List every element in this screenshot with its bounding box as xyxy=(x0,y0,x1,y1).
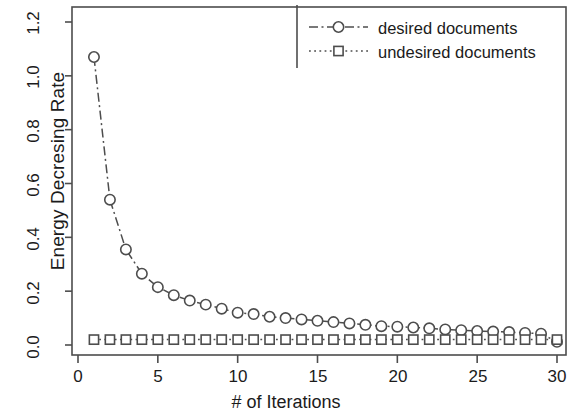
marker-square xyxy=(520,335,529,344)
marker-circle xyxy=(280,313,290,323)
x-tick-label-3: 15 xyxy=(298,367,338,387)
marker-circle xyxy=(185,295,195,305)
y-tick-label-5: 1.0 xyxy=(24,54,44,100)
marker-circle xyxy=(169,290,179,300)
marker-square xyxy=(121,335,130,344)
marker-circle xyxy=(312,316,322,326)
x-tick-label-4: 20 xyxy=(378,367,418,387)
y-tick-label-1: 0.2 xyxy=(24,270,44,316)
plot-canvas xyxy=(0,0,572,419)
marker-circle xyxy=(217,303,227,313)
marker-circle xyxy=(424,323,434,333)
marker-square xyxy=(536,335,545,344)
marker-circle xyxy=(105,194,115,204)
marker-circle xyxy=(137,268,147,278)
legend-marker-circle xyxy=(333,22,343,32)
marker-square xyxy=(393,335,402,344)
marker-square xyxy=(233,335,242,344)
marker-square xyxy=(377,335,386,344)
marker-square xyxy=(265,335,274,344)
x-axis-title: # of Iterations xyxy=(0,392,572,413)
legend-marker-square xyxy=(334,46,343,55)
legend-label-desired: desired documents xyxy=(378,19,517,38)
marker-circle xyxy=(456,325,466,335)
marker-circle xyxy=(360,320,370,330)
marker-square xyxy=(425,335,434,344)
x-tick-label-2: 10 xyxy=(218,367,258,387)
marker-square xyxy=(153,335,162,344)
series-undesired xyxy=(89,335,561,344)
legend-label-undesired: undesired documents xyxy=(378,43,536,62)
marker-square xyxy=(201,335,210,344)
marker-square xyxy=(345,335,354,344)
marker-circle xyxy=(121,244,131,254)
series-desired xyxy=(89,52,562,347)
marker-square xyxy=(329,335,338,344)
marker-circle xyxy=(440,324,450,334)
marker-square xyxy=(185,335,194,344)
marker-square xyxy=(313,335,322,344)
marker-square xyxy=(409,335,418,344)
marker-circle xyxy=(296,314,306,324)
marker-square xyxy=(249,335,258,344)
marker-circle xyxy=(408,322,418,332)
marker-square xyxy=(473,335,482,344)
y-tick-label-3: 0.6 xyxy=(24,162,44,208)
marker-circle xyxy=(248,309,258,319)
y-tick-label-2: 0.4 xyxy=(24,216,44,262)
marker-circle xyxy=(376,321,386,331)
marker-square xyxy=(105,335,114,344)
x-tick-label-1: 5 xyxy=(138,367,178,387)
marker-circle xyxy=(344,318,354,328)
y-tick-label-4: 0.8 xyxy=(24,108,44,154)
marker-circle xyxy=(392,321,402,331)
y-tick-label-6: 1.2 xyxy=(24,0,44,46)
marker-square xyxy=(217,335,226,344)
legend-samples xyxy=(309,22,368,56)
marker-square xyxy=(281,335,290,344)
marker-square xyxy=(505,335,514,344)
marker-square xyxy=(457,335,466,344)
marker-circle xyxy=(153,282,163,292)
series-line xyxy=(94,57,557,342)
marker-square xyxy=(137,335,146,344)
marker-square xyxy=(489,335,498,344)
marker-square xyxy=(297,335,306,344)
x-tick-label-0: 0 xyxy=(58,367,98,387)
x-tick-label-6: 30 xyxy=(537,367,572,387)
marker-square xyxy=(552,335,561,344)
y-tick-label-0: 0.0 xyxy=(24,324,44,370)
marker-circle xyxy=(201,299,211,309)
marker-circle xyxy=(232,308,242,318)
y-axis-title: Energy Decresing Rate xyxy=(47,21,69,321)
marker-circle xyxy=(89,52,99,62)
marker-circle xyxy=(264,312,274,322)
marker-square xyxy=(169,335,178,344)
chart-figure: Energy Decresing Rate # of Iterations 0.… xyxy=(0,0,572,419)
marker-circle xyxy=(328,317,338,327)
marker-square xyxy=(361,335,370,344)
x-tick-label-5: 25 xyxy=(458,367,498,387)
marker-square xyxy=(441,335,450,344)
marker-square xyxy=(89,335,98,344)
